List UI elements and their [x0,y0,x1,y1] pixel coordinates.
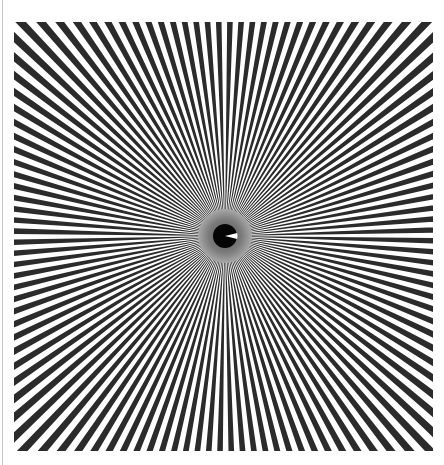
siemens-star-svg [14,22,433,451]
left-border-line [2,0,3,465]
siemens-star-pattern [14,22,433,451]
